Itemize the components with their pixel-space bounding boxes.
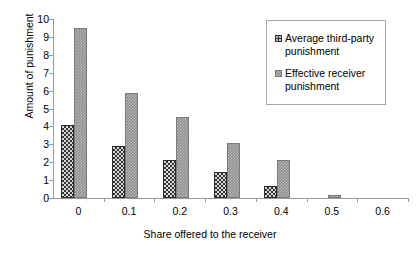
y-axis-tick-mark bbox=[49, 180, 53, 181]
legend-swatch-icon-series-0 bbox=[275, 35, 282, 42]
x-axis-line bbox=[53, 198, 409, 199]
y-axis-tick-mark bbox=[49, 109, 53, 110]
legend-label-series-1: Effective receiver punishment bbox=[285, 67, 381, 92]
x-axis-tick-mark bbox=[408, 198, 409, 202]
bar-series-0-category-4 bbox=[264, 186, 277, 198]
x-axis-tick-mark bbox=[205, 198, 206, 202]
bar-series-1-category-4 bbox=[277, 160, 290, 198]
legend-item-average-third-party-punishment: Average third-party punishment bbox=[275, 32, 381, 57]
x-axis-tick-mark bbox=[256, 198, 257, 202]
legend-label-series-0: Average third-party punishment bbox=[285, 32, 381, 57]
x-axis-tick-label: 0.6 bbox=[375, 205, 390, 217]
y-axis-tick-mark bbox=[49, 126, 53, 127]
x-axis-tick-label: 0.3 bbox=[223, 205, 238, 217]
y-axis-tick-mark bbox=[49, 91, 53, 92]
y-axis-tick-label: 10 bbox=[37, 13, 49, 25]
x-axis-tick-label: 0.4 bbox=[274, 205, 289, 217]
y-axis-tick-mark bbox=[49, 37, 53, 38]
x-axis-tick-mark bbox=[357, 198, 358, 202]
y-axis-tick-mark bbox=[49, 73, 53, 74]
bar-series-1-category-2 bbox=[176, 117, 189, 198]
chart-legend: Average third-party punishment Effective… bbox=[266, 20, 386, 105]
bar-series-0-category-3 bbox=[214, 172, 227, 198]
x-axis-tick-mark bbox=[154, 198, 155, 202]
y-axis-title: Amount of punishment bbox=[23, 0, 35, 156]
x-axis-tick-mark bbox=[104, 198, 105, 202]
bar-series-0-category-1 bbox=[112, 146, 125, 198]
bar-series-1-category-1 bbox=[125, 93, 138, 198]
bar-chart-figure: Amount of punishment Share offered to th… bbox=[0, 0, 419, 257]
bar-series-0-category-2 bbox=[163, 160, 176, 198]
y-axis-tick-mark bbox=[49, 19, 53, 20]
legend-item-effective-receiver-punishment: Effective receiver punishment bbox=[275, 67, 381, 92]
y-axis-tick-mark bbox=[49, 55, 53, 56]
x-axis-title: Share offered to the receiver bbox=[40, 228, 380, 240]
x-axis-tick-label: 0.5 bbox=[325, 205, 340, 217]
legend-swatch-icon-series-1 bbox=[275, 70, 282, 77]
y-axis-tick-mark bbox=[49, 144, 53, 145]
bar-series-1-category-0 bbox=[74, 28, 87, 198]
x-axis-tick-label: 0 bbox=[75, 205, 81, 217]
x-axis-tick-label: 0.1 bbox=[122, 205, 137, 217]
y-axis-tick-mark bbox=[49, 198, 53, 199]
bar-series-1-category-3 bbox=[227, 143, 240, 198]
x-axis-tick-mark bbox=[307, 198, 308, 202]
x-axis-tick-label: 0.2 bbox=[172, 205, 187, 217]
bar-series-1-category-5 bbox=[328, 195, 341, 198]
y-axis-tick-mark bbox=[49, 162, 53, 163]
bar-series-0-category-0 bbox=[61, 125, 74, 198]
